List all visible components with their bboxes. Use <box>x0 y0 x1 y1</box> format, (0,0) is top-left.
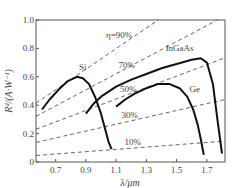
x-axis: 0.70.91.11.31.51.7 <box>50 159 213 175</box>
series-label-0: Si <box>79 62 87 72</box>
y-axis-label: Rᵈ/(A·W⁻¹) <box>3 69 15 114</box>
series-label-5: 50% <box>120 84 137 94</box>
x-tick-label: 1.3 <box>141 165 153 175</box>
x-tick-label: 0.7 <box>50 165 62 175</box>
series-label-7: 10% <box>125 137 142 147</box>
y-tick-label: 1.0 <box>23 15 35 25</box>
responsivity-chart: SiInGaAsGeη=90%70%50%30%10% 0.70.91.11.3… <box>0 0 232 188</box>
y-tick-label: 0.4 <box>23 100 35 110</box>
y-tick-label: 0 <box>30 157 35 167</box>
curve-labels: SiInGaAsGeη=90%70%50%30%10% <box>79 30 200 147</box>
x-tick-label: 1.1 <box>111 165 122 175</box>
x-tick-label: 0.9 <box>80 165 92 175</box>
x-tick-label: 1.5 <box>171 165 183 175</box>
y-tick-label: 0.2 <box>23 129 34 139</box>
y-tick-label: 0.6 <box>23 72 35 82</box>
series-label-2: Ge <box>190 84 201 94</box>
series-label-1: InGaAs <box>166 43 194 53</box>
y-tick-label: 0.8 <box>23 43 35 53</box>
x-tick-label: 1.7 <box>201 165 213 175</box>
y-axis: 00.20.40.60.81.0 <box>23 15 39 167</box>
series-label-6: 30% <box>121 110 138 120</box>
series-label-3: η=90% <box>106 30 133 40</box>
series-label-4: 70% <box>118 60 135 70</box>
x-axis-label: λ/μm <box>119 177 139 188</box>
